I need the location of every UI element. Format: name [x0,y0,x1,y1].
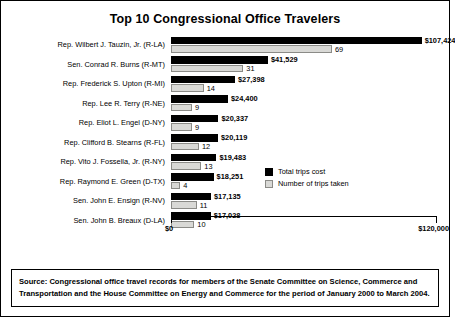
legend-swatch-icon-trips [265,180,273,188]
chart-row: Rep. Eliot L. Engel (D-NY)$20,3379 [13,113,437,133]
bar-value-trips: 14 [207,84,215,93]
source-note-text: Source: Congressional office travel reco… [19,276,431,299]
category-label: Rep. Wilbert J. Tauzin, Jr. (R-LA) [13,40,165,49]
chart-row: Sen. John E. Ensign (R-NV)$17,13511 [13,191,437,211]
category-label: Rep. Raymond E. Green (D-TX) [13,177,165,186]
bar-total-trips-cost [171,115,218,123]
bar-number-of-trips [171,104,192,112]
chart-row: Sen. John B. Breaux (D-LA)$17,02810 [13,211,437,231]
chart-legend: Total trips cost Number of trips taken [265,167,349,191]
category-label: Sen. John E. Ensign (R-NV) [13,196,165,205]
bar-number-of-trips [171,45,332,53]
bar-group: $41,52931 [171,55,437,75]
bar-value-cost: $20,119 [221,133,247,142]
bar-total-trips-cost [171,193,211,201]
chart-row: Rep. Wilbert J. Tauzin, Jr. (R-LA)$107,4… [13,35,437,55]
chart-row: Sen. Conrad R. Burns (R-MT)$41,52931 [13,55,437,75]
bar-total-trips-cost [171,76,235,84]
bar-value-cost: $27,398 [238,75,265,84]
category-label: Rep. Frederick S. Upton (R-MI) [13,79,165,88]
legend-label-trips: Number of trips taken [278,179,349,188]
bar-value-trips: 9 [195,103,199,112]
bar-number-of-trips [171,123,192,131]
category-label: Rep. Eliot L. Engel (D-NY) [13,118,165,127]
category-label: Sen. John B. Breaux (D-LA) [13,216,165,225]
bar-value-trips: 31 [246,64,254,73]
x-axis-label-max: $120,000 [418,224,449,233]
chart-title: Top 10 Congressional Office Travelers [1,12,449,26]
bar-value-trips: 12 [202,142,210,151]
bar-value-trips: 11 [200,201,208,210]
bar-number-of-trips [171,65,243,73]
chart-row: Rep. Frederick S. Upton (R-MI)$27,39814 [13,74,437,94]
bar-value-cost: $20,337 [221,114,248,123]
bar-value-cost: $24,400 [231,94,258,103]
bar-value-cost: $17,135 [214,192,241,201]
x-axis-tick-min [171,217,172,223]
bar-value-cost: $19,483 [219,153,246,162]
bar-total-trips-cost [171,134,218,142]
bar-value-cost: $41,529 [271,55,298,64]
bar-group: $27,39814 [171,74,437,94]
bar-total-trips-cost [171,56,268,64]
legend-item-number-of-trips: Number of trips taken [265,179,349,188]
bar-total-trips-cost [171,95,228,103]
bar-value-trips: 13 [204,162,212,171]
bar-group: $20,3379 [171,113,437,133]
chart-row: Rep. Lee R. Terry (R-NE)$24,4009 [13,94,437,114]
bar-group: $107,42469 [171,35,437,55]
category-label: Rep. Lee R. Terry (R-NE) [13,99,165,108]
bar-total-trips-cost [171,154,216,162]
legend-label-cost: Total trips cost [278,167,325,176]
bar-value-trips: 69 [335,45,343,54]
x-axis-line [171,216,437,217]
bar-group: $24,4009 [171,94,437,114]
legend-swatch-icon-cost [265,168,273,176]
bar-total-trips-cost [171,37,422,45]
bar-rows: Rep. Wilbert J. Tauzin, Jr. (R-LA)$107,4… [13,35,437,230]
category-label: Rep. Clifford B. Stearns (R-FL) [13,138,165,147]
bar-number-of-trips [171,162,201,170]
x-axis-tick-max [436,217,437,223]
chart-row: Rep. Clifford B. Stearns (R-FL)$20,11912 [13,133,437,153]
bar-number-of-trips [171,201,197,209]
bar-group: $17,02810 [171,211,437,231]
bar-value-cost: $107,424 [425,36,455,45]
bar-number-of-trips [171,143,199,151]
chart-row: Rep. Raymond E. Green (D-TX)$18,2514 [13,172,437,192]
chart-plot-area: Rep. Wilbert J. Tauzin, Jr. (R-LA)$107,4… [13,35,437,231]
chart-row: Rep. Vito J. Fossella, Jr. (R-NY)$19,483… [13,152,437,172]
bar-value-trips: 10 [197,220,205,229]
bar-group: $20,11912 [171,133,437,153]
bar-number-of-trips [171,84,204,92]
bar-value-trips: 9 [195,123,199,132]
bar-value-cost: $18,251 [217,172,244,181]
category-label: Sen. Conrad R. Burns (R-MT) [13,60,165,69]
bar-number-of-trips [171,182,180,190]
source-note-box: Source: Congressional office travel reco… [11,269,439,307]
x-axis-label-min: $0 [165,224,173,233]
bar-number-of-trips [171,221,194,229]
bar-value-trips: 4 [183,181,187,190]
category-label: Rep. Vito J. Fossella, Jr. (R-NY) [13,157,165,166]
bar-total-trips-cost [171,173,214,181]
legend-item-total-trips-cost: Total trips cost [265,167,349,176]
bar-group: $17,13511 [171,191,437,211]
